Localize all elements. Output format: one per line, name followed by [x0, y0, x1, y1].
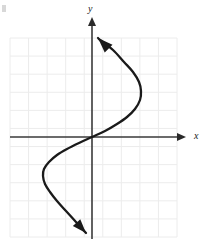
y-axis-label: y: [88, 4, 92, 14]
curve-upper-arrow-icon: [98, 38, 113, 53]
y-axis-arrow-icon: [88, 17, 96, 26]
cubic-curve-plot: [0, 0, 211, 249]
x-axis-label: x: [194, 131, 198, 141]
x-axis-arrow-icon: [177, 133, 186, 141]
graph-figure: x y: [0, 0, 211, 249]
